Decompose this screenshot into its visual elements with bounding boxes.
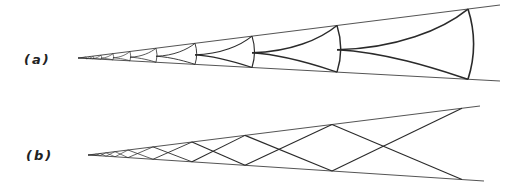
lower-ray-curve (337, 50, 468, 79)
wavefront-arc (86, 57, 87, 58)
wavefront-arc (113, 54, 114, 60)
top-edge-line (78, 5, 500, 58)
panel-b-zigzag-lattice (88, 106, 484, 181)
panel-b-label: (b) (26, 148, 53, 163)
upper-ray-curve (252, 25, 337, 52)
panel-a-label: (a) (24, 52, 51, 67)
panel-a-trumpet-cells (78, 5, 500, 81)
upper-ray-curve (195, 36, 252, 55)
lower-ray-curve (252, 53, 337, 72)
wavefront-arc (156, 48, 157, 62)
ascending-ray (245, 125, 332, 166)
ascending-ray (192, 135, 245, 161)
wavefront-arc (130, 51, 131, 60)
bottom-edge-line (88, 155, 484, 181)
wavefront-arc (101, 55, 102, 59)
wavefront-arc (195, 43, 197, 64)
wavefront-arc (468, 9, 474, 79)
ascending-ray (332, 108, 462, 171)
upper-ray-curve (337, 9, 468, 50)
wavefront-arc (337, 25, 341, 72)
wavefront-arc (252, 36, 255, 67)
top-edge-line (88, 106, 480, 155)
descending-ray (332, 125, 462, 180)
diagram-canvas (0, 0, 521, 189)
